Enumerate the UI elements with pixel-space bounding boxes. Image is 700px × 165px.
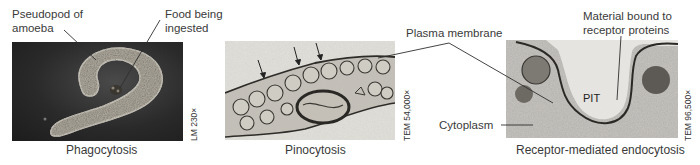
caption-pinocytosis: Pinocytosis xyxy=(285,143,346,157)
caption-receptor-mediated: Receptor-mediated endocytosis xyxy=(516,143,685,157)
food-label-line2: ingested xyxy=(165,21,223,35)
caption-phagocytosis: Phagocytosis xyxy=(66,143,137,157)
pseudopod-label: Pseudopod of amoeba xyxy=(12,7,83,35)
magnification-label-receptor: TEM 96,500× xyxy=(683,90,693,141)
magnification-label-pinocytosis: TEM 54,000× xyxy=(402,90,412,141)
material-bound-label-line1: Material bound to xyxy=(583,9,672,23)
pseudopod-label-line1: Pseudopod of xyxy=(12,7,83,21)
pseudopod-label-line2: amoeba xyxy=(12,21,83,35)
coated-pit-art xyxy=(506,40,678,138)
material-bound-label: Material bound to receptor proteins xyxy=(583,9,672,37)
material-bound-label-line2: receptor proteins xyxy=(583,23,672,37)
phagocytosis-micrograph xyxy=(12,42,183,141)
food-label-line1: Food being xyxy=(165,7,223,21)
amoeba-shape xyxy=(12,42,183,141)
receptor-mediated-micrograph xyxy=(506,40,678,138)
plasma-membrane-label: Plasma membrane xyxy=(406,26,503,40)
pit-label: PIT xyxy=(583,91,600,105)
cytoplasm-label: Cytoplasm xyxy=(439,118,493,132)
pinocytosis-membrane-art xyxy=(225,41,395,140)
food-label: Food being ingested xyxy=(165,7,223,35)
pinocytosis-micrograph xyxy=(225,41,395,140)
magnification-label-phagocytosis: LM 230× xyxy=(189,108,199,141)
